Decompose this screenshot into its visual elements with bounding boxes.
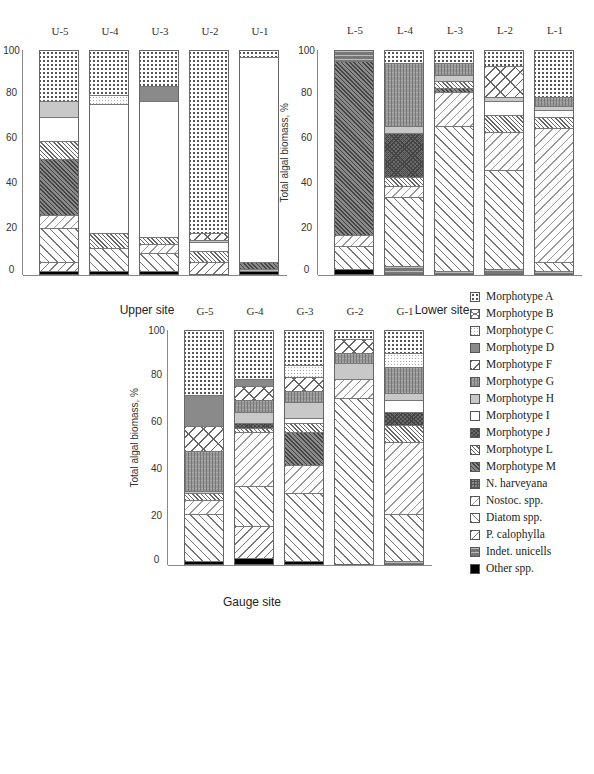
legend-item: P. calophylla — [470, 528, 580, 544]
legend-label: Diatom spp. — [486, 511, 586, 523]
segment-a — [485, 51, 523, 67]
y-axis-title: Total algal biomass, % — [279, 103, 290, 203]
tick-label: 0 — [9, 264, 15, 275]
segment-indet — [535, 272, 573, 274]
legend-item: Indet. unicells — [470, 545, 580, 561]
legend-swatch — [470, 360, 480, 370]
segment-f — [190, 234, 228, 241]
segment-h — [385, 127, 423, 134]
segment-nostoc — [185, 501, 223, 515]
segment-f — [485, 67, 523, 98]
segment-c — [90, 96, 128, 105]
segment-a — [235, 331, 273, 380]
legend-swatch — [470, 292, 480, 302]
figure: L-1L-2L-3L-4L-5100806040200Total algal b… — [0, 0, 594, 774]
segment-indet — [435, 272, 473, 274]
tick-label: 100 — [3, 45, 20, 56]
segment-j — [385, 413, 423, 427]
stacked-bar — [184, 330, 224, 565]
segment-a — [140, 51, 178, 87]
segment-h — [335, 364, 373, 380]
legend-label: Morphotype G — [486, 375, 586, 387]
segment-g — [235, 401, 273, 413]
segment-h — [385, 394, 423, 401]
legend-item: Morphotype G — [470, 375, 580, 391]
segment-a — [535, 51, 573, 98]
tick-label: 40 — [301, 177, 312, 188]
legend-label: Morphotype J — [486, 426, 586, 438]
legend-swatch — [470, 326, 480, 336]
legend-swatch — [470, 462, 480, 472]
legend-item: Morphotype M — [470, 460, 580, 476]
bar-label: U-5 — [51, 25, 68, 37]
segment-i — [90, 105, 128, 234]
stacked-bar — [334, 50, 374, 275]
legend-item: Morphotype A — [470, 290, 580, 306]
legend-label: Morphotype B — [486, 307, 586, 319]
stacked-bar — [139, 50, 179, 275]
segment-diatom — [140, 254, 178, 272]
segment-h — [435, 76, 473, 83]
segment-other — [335, 270, 373, 274]
segment-i — [535, 111, 573, 118]
stacked-bar — [484, 50, 524, 275]
tick-label: 100 — [298, 45, 315, 56]
legend-label: Indet. unicells — [486, 545, 586, 557]
segment-other — [140, 272, 178, 274]
baseline — [23, 275, 287, 276]
segment-i — [190, 243, 228, 252]
segment-d — [235, 380, 273, 387]
tick-label: 20 — [301, 222, 312, 233]
segment-diatom — [535, 263, 573, 272]
legend-label: Morphotype F — [486, 358, 586, 370]
segment-h — [40, 102, 78, 118]
legend-label: Morphotype L — [486, 443, 586, 455]
segment-a — [435, 51, 473, 64]
segment-diatom — [485, 171, 523, 269]
legend-item: Nostoc. spp. — [470, 494, 580, 510]
segment-diatom — [335, 247, 373, 269]
segment-nostoc — [485, 133, 523, 171]
segment-diatom — [385, 198, 423, 267]
segment-f — [285, 378, 323, 392]
legend-label: Morphotype M — [486, 460, 586, 472]
segment-indet — [385, 562, 423, 564]
segment-diatom — [435, 127, 473, 272]
stacked-bar — [434, 50, 474, 275]
legend-swatch — [470, 309, 480, 319]
segment-diatom — [285, 494, 323, 562]
panel-upper-site: U-1U-2U-3U-4U-5100806040200Total algal b… — [0, 30, 279, 315]
segment-other — [235, 559, 273, 564]
legend-swatch — [470, 428, 480, 438]
baseline — [318, 275, 582, 276]
segment-l — [385, 178, 423, 187]
segment-i — [40, 118, 78, 143]
legend-label: Morphotype H — [486, 392, 586, 404]
segment-j — [385, 134, 423, 179]
tick-label: 0 — [304, 264, 310, 275]
tick-label: 60 — [6, 132, 17, 143]
segment-l — [140, 238, 178, 245]
segment-other — [185, 562, 223, 564]
tick-label: 20 — [6, 222, 17, 233]
legend-item: Morphotype B — [470, 307, 580, 323]
segment-c — [285, 366, 323, 378]
segment-other — [285, 562, 323, 564]
legend-swatch — [470, 394, 480, 404]
segment-f — [335, 340, 373, 354]
segment-diatom — [385, 515, 423, 562]
x-axis-line — [167, 330, 168, 565]
x-axis-line — [22, 50, 23, 275]
bar-label: G-1 — [396, 305, 413, 317]
tick-label: 40 — [6, 177, 17, 188]
legend-item: Morphotype H — [470, 392, 580, 408]
y-axis-title: Total algal biomass, % — [129, 388, 140, 488]
segment-other — [90, 272, 128, 274]
legend-label: Other spp. — [486, 562, 586, 574]
stacked-bar — [534, 50, 574, 275]
legend-label: P. calophylla — [486, 528, 586, 540]
segment-diatom — [335, 399, 373, 564]
stacked-bar — [239, 50, 279, 275]
segment-nostoc — [335, 236, 373, 247]
segment-indet — [485, 270, 523, 274]
